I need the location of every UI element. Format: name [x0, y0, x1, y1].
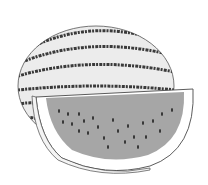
watermelon-slice [32, 89, 193, 173]
watermelon-illustration [0, 0, 208, 185]
watermelon-drawing [0, 0, 208, 185]
